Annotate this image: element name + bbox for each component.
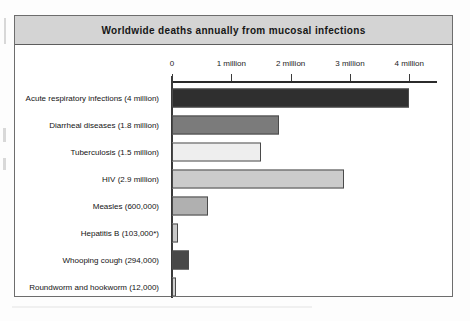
x-axis-tick-mark	[172, 74, 173, 81]
bar	[172, 115, 279, 134]
bar-category-label: Whooping cough (294,000)	[15, 255, 165, 264]
bar	[172, 169, 344, 188]
bar	[172, 223, 178, 242]
x-axis-tick-label: 3 million	[335, 59, 364, 68]
x-axis-tick-mark	[291, 74, 292, 81]
bar	[172, 88, 409, 107]
bar-row: Diarrheal diseases (1.8 million)	[15, 111, 452, 138]
chart-title-band: Worldwide deaths annually from mucosal i…	[15, 16, 452, 45]
bar-row: Whooping cough (294,000)	[15, 246, 452, 273]
x-axis-tick-label: 2 million	[276, 59, 305, 68]
bar-category-label: Hepatitis B (103,000*)	[15, 228, 165, 237]
bar-row: Tuberculosis (1.5 million)	[15, 138, 452, 165]
chart-title: Worldwide deaths annually from mucosal i…	[101, 25, 365, 36]
bar-category-label: HIV (2.9 million)	[15, 174, 165, 183]
page-background: Worldwide deaths annually from mucosal i…	[0, 0, 470, 321]
plot-area: 01 million2 million3 million4 million Ac…	[15, 46, 452, 296]
bar-category-label: Diarrheal diseases (1.8 million)	[15, 120, 165, 129]
bar	[172, 277, 176, 296]
bar	[172, 196, 208, 215]
bar-row: Hepatitis B (103,000*)	[15, 219, 452, 246]
bar-row: Roundworm and hookworm (12,000)	[15, 273, 452, 300]
x-axis-tick-label: 0	[170, 59, 174, 68]
bar	[172, 142, 261, 161]
bar-category-label: Measles (600,000)	[15, 201, 165, 210]
x-axis-line	[171, 81, 437, 83]
x-axis-tick-label: 4 million	[395, 59, 424, 68]
chart-figure: Worldwide deaths annually from mucosal i…	[14, 15, 453, 297]
x-axis-tick-mark	[350, 74, 351, 81]
x-axis-tick-mark	[409, 74, 410, 81]
scan-artifact	[4, 18, 6, 44]
x-axis-tick-mark	[231, 74, 232, 81]
bar-row: Acute respiratory infections (4 million)	[15, 84, 452, 111]
scan-artifact	[3, 128, 6, 142]
bar-row: HIV (2.9 million)	[15, 165, 452, 192]
bar-row: Measles (600,000)	[15, 192, 452, 219]
bar-category-label: Tuberculosis (1.5 million)	[15, 147, 165, 156]
bar-category-label: Roundworm and hookworm (12,000)	[15, 282, 165, 291]
scan-artifact	[3, 158, 6, 170]
bar-category-label: Acute respiratory infections (4 million)	[15, 93, 165, 102]
bar	[172, 250, 189, 269]
scan-artifact	[12, 306, 312, 308]
x-axis-tick-label: 1 million	[217, 59, 246, 68]
